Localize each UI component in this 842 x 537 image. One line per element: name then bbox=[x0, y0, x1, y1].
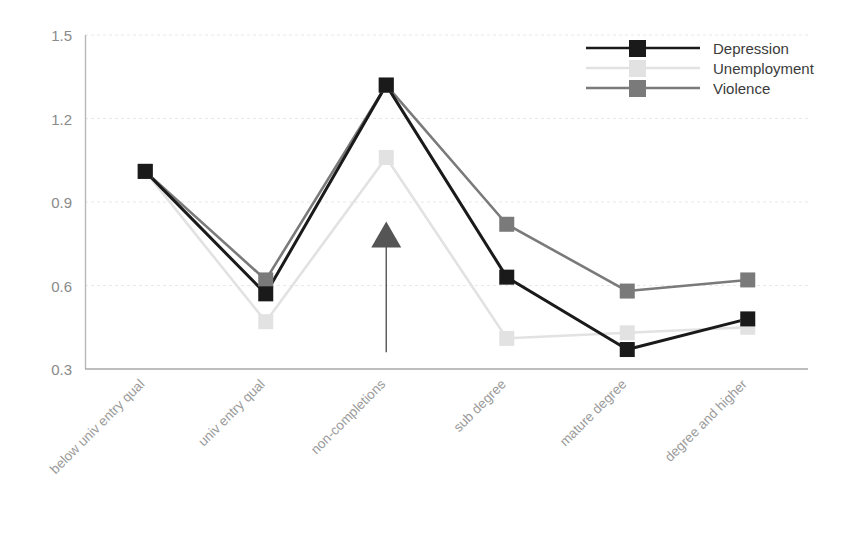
legend-label-violence: Violence bbox=[713, 80, 770, 97]
ytick-label-0.9: 0.9 bbox=[51, 194, 72, 211]
data-point-marker bbox=[499, 331, 514, 346]
data-point-marker bbox=[620, 342, 635, 357]
ytick-label-1.5: 1.5 bbox=[51, 27, 72, 44]
chart-canvas: 1.5 1.2 0.9 0.6 0.3 below univ entry qua… bbox=[0, 0, 842, 537]
y-axis-tick-labels: 1.5 1.2 0.9 0.6 0.3 bbox=[51, 27, 72, 378]
x-axis-tick-labels: below univ entry qualuniv entry qualnon-… bbox=[47, 376, 750, 477]
xtick-label: non-completions bbox=[308, 376, 389, 457]
arrow-head-icon bbox=[371, 221, 401, 247]
legend-item-unemployment[interactable]: Unemployment bbox=[586, 60, 815, 77]
legend-label-unemployment: Unemployment bbox=[713, 60, 815, 77]
ytick-label-0.3: 0.3 bbox=[51, 361, 72, 378]
legend-item-depression[interactable]: Depression bbox=[586, 40, 789, 57]
data-point-marker bbox=[258, 314, 273, 329]
data-point-marker bbox=[499, 270, 514, 285]
series-markers-violence bbox=[138, 78, 756, 299]
data-point-marker bbox=[258, 286, 273, 301]
series-markers-depression bbox=[138, 78, 756, 357]
xtick-label: sub degree bbox=[450, 377, 508, 435]
data-point-marker bbox=[499, 217, 514, 232]
series-line-violence bbox=[145, 85, 748, 291]
legend-marker-unemployment bbox=[629, 60, 646, 77]
data-point-marker bbox=[258, 272, 273, 287]
data-point-marker bbox=[620, 284, 635, 299]
series-line-depression bbox=[145, 85, 748, 349]
data-point-marker bbox=[740, 311, 755, 326]
xtick-label: univ entry qual bbox=[195, 377, 268, 450]
legend-marker-depression bbox=[629, 40, 646, 57]
upward-arrow-annotation bbox=[371, 221, 401, 352]
xtick-label: below univ entry qual bbox=[47, 377, 147, 477]
legend: Depression Unemployment Violence bbox=[586, 40, 815, 97]
legend-label-depression: Depression bbox=[713, 40, 789, 57]
data-point-marker bbox=[620, 325, 635, 340]
data-point-marker bbox=[740, 272, 755, 287]
xtick-label: mature degree bbox=[557, 377, 630, 450]
series-line-unemployment bbox=[145, 157, 748, 338]
data-point-marker bbox=[379, 78, 394, 93]
data-point-marker bbox=[138, 164, 153, 179]
legend-item-violence[interactable]: Violence bbox=[586, 80, 770, 97]
ytick-label-1.2: 1.2 bbox=[51, 111, 72, 128]
xtick-label: degree and higher bbox=[662, 376, 750, 464]
ytick-label-0.6: 0.6 bbox=[51, 278, 72, 295]
line-chart: 1.5 1.2 0.9 0.6 0.3 below univ entry qua… bbox=[0, 0, 842, 537]
legend-marker-violence bbox=[629, 80, 646, 97]
series-lines bbox=[145, 85, 748, 349]
data-point-marker bbox=[379, 150, 394, 165]
